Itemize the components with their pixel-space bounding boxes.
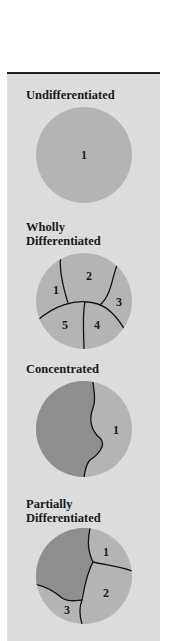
segment-1-label: 1 xyxy=(103,545,109,559)
segment-1-label: 1 xyxy=(53,283,59,297)
segment-2-label: 2 xyxy=(86,269,92,283)
wholly-differentiated-diagram: 1 2 3 4 5 xyxy=(0,250,175,355)
title-line-1: Partially xyxy=(26,497,73,511)
title-line-2: Differentiated xyxy=(26,511,101,525)
partially-differentiated-title: Partially Differentiated xyxy=(26,497,101,525)
segment-3-label: 3 xyxy=(116,295,122,309)
title-line-2: Differentiated xyxy=(26,234,101,248)
segment-1-label: 1 xyxy=(81,148,87,162)
concentrated-diagram: 1 xyxy=(0,378,175,483)
concentrated-title: Concentrated xyxy=(26,362,99,376)
segment-4-label: 4 xyxy=(94,318,100,332)
wholly-differentiated-title: Wholly Differentiated xyxy=(26,220,101,248)
segment-5-label: 5 xyxy=(62,318,68,332)
undifferentiated-diagram: 1 xyxy=(0,100,175,210)
title-line-1: Wholly xyxy=(26,220,65,234)
segment-1-label: 1 xyxy=(113,423,119,437)
partially-differentiated-diagram: 1 2 3 xyxy=(0,525,175,630)
segment-3-label: 3 xyxy=(64,603,70,617)
segment-2-label: 2 xyxy=(103,586,109,600)
